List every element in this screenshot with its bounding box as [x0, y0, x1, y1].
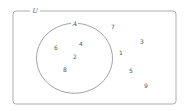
- venn-diagram: U A 6 4 2 8 7 3 1 5 9: [0, 0, 186, 111]
- element-5: 5: [129, 67, 133, 74]
- element-3: 3: [140, 38, 144, 45]
- element-1: 1: [119, 49, 123, 56]
- universe-label: U: [33, 7, 39, 15]
- element-9: 9: [144, 82, 148, 89]
- element-2: 2: [73, 53, 77, 60]
- element-4: 4: [79, 40, 83, 47]
- element-6: 6: [54, 44, 58, 51]
- universe-border: [13, 11, 176, 104]
- element-8: 8: [63, 66, 67, 73]
- set-a-label: A: [72, 20, 78, 28]
- element-7: 7: [111, 23, 115, 30]
